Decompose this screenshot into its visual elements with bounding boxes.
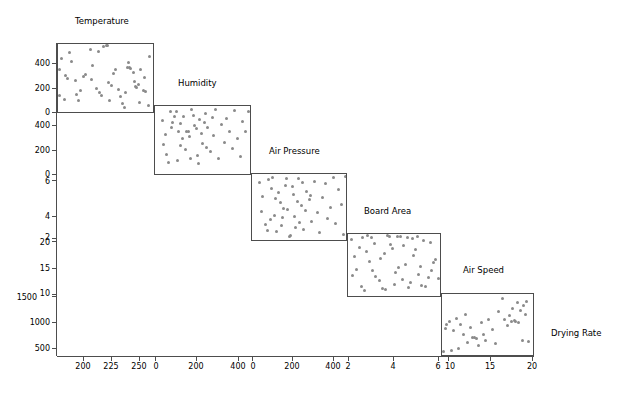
data-point [444,327,447,330]
data-point [508,314,511,317]
data-point [200,132,203,135]
x-tick-mark [292,357,293,361]
data-point [135,86,138,89]
x-tick-mark [348,357,349,361]
data-point [527,340,530,343]
data-point [261,195,264,198]
x-tick-label: 225 [103,362,118,371]
data-point [355,268,358,271]
y-tick-label: 0 [12,108,50,117]
data-point [190,108,193,111]
y-tick-mark [52,294,56,295]
data-point [361,236,364,239]
data-point [143,76,146,79]
scatter-panel-temperature-humidity[interactable] [57,43,154,113]
data-point [519,309,522,312]
y-tick-mark [52,112,56,113]
data-point [164,133,167,136]
data-point [524,313,527,316]
data-point [516,301,519,304]
data-point [525,300,528,303]
data-point [58,94,61,97]
data-point [324,182,327,185]
data-point [442,350,445,353]
x-tick-mark [438,357,439,361]
data-point [195,127,198,130]
y-tick-mark [52,174,56,175]
data-point [169,110,172,113]
data-point [477,344,480,347]
data-point [127,61,130,64]
y-tick-label: 20 [8,238,50,247]
y-tick-label: 500 [12,344,50,353]
data-point [75,93,78,96]
x-tick-label: 0 [250,362,255,371]
data-point [373,242,376,245]
data-point [179,144,182,147]
data-point [176,159,179,162]
data-point [286,208,289,211]
data-point [503,318,506,321]
scatter-panel-humidity-air-pressure[interactable] [154,105,251,175]
x-tick-label: 2 [345,362,350,371]
x-tick-mark [196,357,197,361]
data-point [404,263,407,266]
data-point [121,102,124,105]
data-point [401,278,404,281]
data-point [475,337,478,340]
data-point [91,64,94,67]
data-point [205,146,208,149]
y-tick-mark [52,241,56,242]
data-point [203,121,206,124]
x-axis-spine-panel-2 [154,356,251,357]
data-point [313,180,316,183]
x-tick-label: 200 [284,362,299,371]
data-point [329,206,332,209]
scatter-panel-board-area-air-speed[interactable] [347,233,441,297]
data-point [318,231,321,234]
x-tick-label: 400 [325,362,340,371]
data-point [264,223,267,226]
data-point [177,130,180,133]
data-point [274,197,277,200]
data-point [344,175,347,178]
x-tick-label: 6 [435,362,440,371]
x-tick-label: 4 [390,362,395,371]
data-point [58,68,61,71]
data-point [432,261,435,264]
data-point [285,177,288,180]
data-point [82,75,85,78]
x-axis-spine-panel-5 [441,356,534,357]
data-point [209,150,212,153]
data-point [181,137,184,140]
scatter-panel-air-pressure-board-area[interactable] [251,173,347,241]
data-point [522,304,525,307]
data-point [370,236,373,239]
y-tick-label: 400 [12,121,50,130]
y-axis-spine-panel-5 [56,293,57,356]
data-point [464,313,467,316]
y-tick-mark [52,150,56,151]
data-point [350,238,353,241]
data-point [273,214,276,217]
data-point [233,109,236,112]
data-point [368,260,371,263]
data-point [406,236,409,239]
scatter-panel-air-speed-drying-rate[interactable] [441,293,534,356]
scatterplot-matrix: Temperature Humidity Air Pressure Board … [0,0,640,396]
y-tick-mark [52,63,56,64]
data-point [337,188,340,191]
data-point [95,87,98,90]
y-tick-label: 15 [12,264,50,273]
data-point [326,217,329,220]
data-point [110,84,113,87]
data-point [455,317,458,320]
data-point [70,60,73,63]
data-point [363,289,366,292]
data-point [521,339,524,342]
x-tick-mark [238,357,239,361]
data-point [457,347,460,350]
data-point [360,285,363,288]
data-point [379,257,382,260]
data-point [430,269,433,272]
